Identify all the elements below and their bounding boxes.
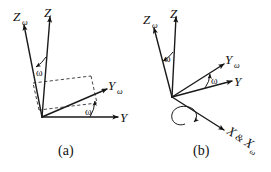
coordinate-rotation-figure: Z ω Z Y Y ω ω ω (a) Z ω (0, 0, 271, 172)
panel-a-label-z-omega-base: Z (13, 9, 21, 24)
panel-a-label-y-omega-sub: ω (117, 87, 123, 96)
panel-b-label-y-omega-sub: ω (234, 61, 240, 70)
panel-b-label-z-omega-sub: ω (152, 21, 158, 30)
panel-a-omega-label-y: ω (85, 106, 92, 117)
panel-b-omega-label-y: ω (211, 75, 218, 86)
panel-b-label-z: Z (170, 6, 178, 21)
figure-container: Z ω Z Y Y ω ω ω (a) Z ω (0, 0, 271, 172)
figure-background (0, 0, 271, 172)
panel-b-caption: (b) (193, 143, 210, 159)
panel-a-omega-label-z: ω (36, 67, 43, 78)
panel-a-caption: (a) (58, 143, 74, 159)
panel-b-omega-label-z: ω (164, 53, 171, 64)
panel-a-label-z: Z (44, 5, 52, 20)
panel-b-label-z-omega-base: Z (143, 12, 151, 27)
panel-a-label-z-omega-sub: ω (22, 18, 28, 27)
